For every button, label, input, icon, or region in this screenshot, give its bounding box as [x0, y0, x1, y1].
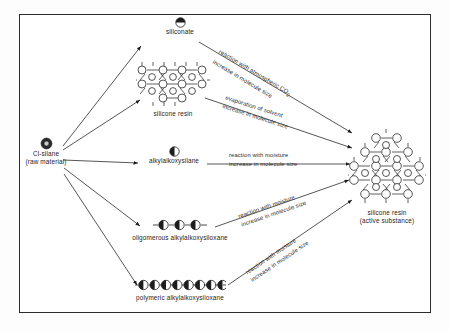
- honeycomb-lattice-icon: [128, 60, 218, 108]
- half-filled-left-circle-icon: [130, 142, 218, 157]
- node-alkylalkoxysilane[interactable]: alkylalkoxysilane: [130, 142, 218, 165]
- ring-circle-icon: [8, 136, 84, 150]
- edge-label-line1-alkylalkoxysilane: reaction with moisture: [229, 151, 297, 160]
- node-silicone-resin-intermediate[interactable]: silicone resin: [128, 60, 218, 118]
- edge-label-line2-alkylalkoxysilane: increase in molecule size: [229, 160, 297, 169]
- node-label-cl-silane-line1: Cl-silane: [8, 150, 84, 158]
- node-label-oligomerous-alkylalkoxysiloxane: oligomerous alkylalkoxysiloxane: [108, 234, 252, 242]
- node-label-silicone-resin-active-line2: (active substance): [344, 217, 430, 225]
- node-label-alkylalkoxysilane: alkylalkoxysilane: [130, 157, 218, 165]
- three-bead-chain-icon: [108, 217, 252, 231]
- large-honeycomb-lattice-icon: [344, 128, 430, 206]
- node-polymeric-alkylalkoxysiloxane[interactable]: polymeric alkylalkoxysiloxane: [105, 277, 255, 302]
- half-filled-top-circle-icon: [140, 14, 220, 28]
- node-label-polymeric-alkylalkoxysiloxane: polymeric alkylalkoxysiloxane: [105, 294, 255, 302]
- node-siliconate[interactable]: siliconate: [140, 14, 220, 36]
- node-label-silicone-resin-intermediate: silicone resin: [128, 110, 218, 118]
- node-label-cl-silane-line2: (raw material): [8, 158, 84, 166]
- node-cl-silane[interactable]: Cl-silane (raw material): [8, 136, 84, 166]
- node-label-siliconate: siliconate: [140, 28, 220, 36]
- edge-label-alkylalkoxysilane-to-resin: reaction with moisture increase in molec…: [229, 151, 297, 169]
- eight-bead-chain-icon: [105, 277, 255, 291]
- node-oligomerous-alkylalkoxysiloxane[interactable]: oligomerous alkylalkoxysiloxane: [108, 217, 252, 242]
- node-silicone-resin-active[interactable]: silicone resin (active substance): [344, 128, 430, 225]
- node-label-silicone-resin-active-line1: silicone resin: [344, 209, 430, 217]
- diagram-canvas: Cl-silane (raw material) siliconate: [0, 0, 449, 333]
